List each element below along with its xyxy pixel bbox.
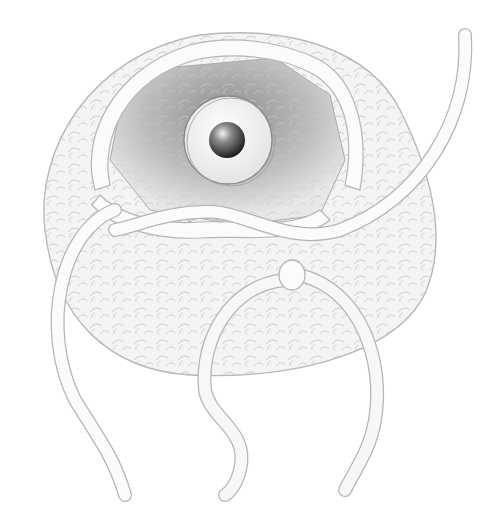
- crochet-illustration: [0, 0, 488, 505]
- illustration: Crocheted amigurumi shell with a safety …: [0, 0, 488, 505]
